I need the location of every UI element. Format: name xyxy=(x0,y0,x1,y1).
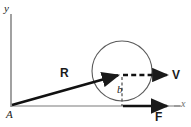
y-axis-label: y xyxy=(4,3,9,14)
diagram-canvas xyxy=(0,0,191,127)
velocity-vector-label: V xyxy=(172,69,180,81)
origin-point-label: A xyxy=(6,109,13,120)
force-vector-label: F xyxy=(155,111,162,123)
vector-diagram-figure: y x A b R V F xyxy=(0,0,191,127)
impact-parameter-label: b xyxy=(117,84,123,95)
position-vector-label: R xyxy=(60,67,69,79)
x-axis-label: x xyxy=(181,99,185,109)
